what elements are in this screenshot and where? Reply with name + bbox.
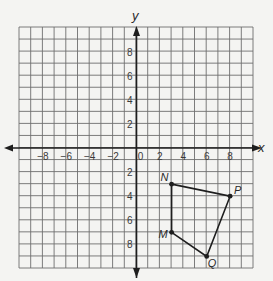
- vertex-point-m: [169, 230, 174, 235]
- y-tick-label: 4: [127, 191, 133, 202]
- x-tick-label: −8: [37, 151, 49, 162]
- y-tick-label: 2: [127, 167, 133, 178]
- y-tick-label: 8: [127, 47, 133, 58]
- vertex-label-m: M: [159, 228, 169, 240]
- y-tick-label: 6: [127, 215, 133, 226]
- coordinate-plane: −8−6−4−20246886422468 NPQM x y: [0, 0, 273, 281]
- vertex-label-n: N: [161, 171, 169, 183]
- x-tick-label: −6: [61, 151, 73, 162]
- x-tick-label: −4: [84, 151, 96, 162]
- vertex-point-n: [169, 182, 174, 187]
- y-axis-down-arrow-icon: [133, 268, 140, 278]
- polygon-outline: [172, 184, 231, 256]
- x-tick-label: 6: [204, 151, 210, 162]
- vertex-label-q: Q: [208, 257, 217, 269]
- x-tick-label: 8: [227, 151, 233, 162]
- x-tick-label: 0: [138, 151, 144, 162]
- y-tick-label: 8: [127, 239, 133, 250]
- y-tick-label: 6: [127, 71, 133, 82]
- x-tick-label: −2: [107, 151, 119, 162]
- vertex-label-p: P: [234, 184, 242, 196]
- x-tick-label: 4: [181, 151, 187, 162]
- x-axis-left-arrow-icon: [4, 145, 13, 152]
- x-tick-label: 2: [157, 151, 163, 162]
- y-axis-label: y: [131, 8, 140, 23]
- y-axis-up-arrow-icon: [133, 26, 140, 36]
- y-tick-label: 4: [127, 95, 133, 106]
- vertex-point-p: [228, 194, 233, 199]
- x-axis-label: x: [257, 140, 265, 155]
- y-tick-label: 2: [127, 119, 133, 130]
